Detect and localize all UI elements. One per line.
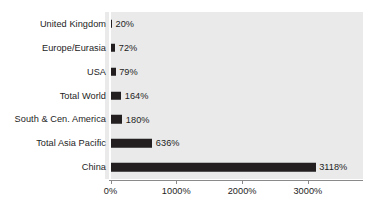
- bar-row-united-kingdom: United Kingdom 20%: [0, 12, 376, 36]
- bar-row-south-cen-america: South & Cen. America 180%: [0, 107, 376, 131]
- value-label: 636%: [156, 138, 180, 148]
- bar-row-europe-eurasia: Europe/Eurasia 72%: [0, 36, 376, 60]
- category-label: China: [82, 162, 106, 172]
- tick-label: 3000%: [293, 186, 322, 196]
- bar-group: 3118%: [111, 163, 348, 172]
- bar: [111, 115, 123, 124]
- bar-group: 180%: [111, 115, 150, 124]
- bar-group: 636%: [111, 139, 180, 148]
- bar: [111, 67, 116, 76]
- tick-mark: [111, 180, 112, 184]
- category-label: USA: [87, 67, 106, 77]
- bar-group: 72%: [111, 44, 138, 53]
- bar-row-total-asia-pacific: Total Asia Pacific 636%: [0, 131, 376, 155]
- value-label: 79%: [119, 67, 138, 77]
- tick-mark: [176, 180, 177, 184]
- value-label: 3118%: [319, 162, 347, 172]
- category-label: Total World: [60, 91, 106, 101]
- tick-mark: [308, 180, 309, 184]
- bar-group: 164%: [111, 91, 149, 100]
- category-label: South & Cen. America: [15, 114, 106, 124]
- tick-label: 0%: [104, 186, 117, 196]
- value-label: 20%: [116, 19, 135, 29]
- bar: [111, 91, 122, 100]
- bar: [111, 44, 116, 53]
- value-label: 164%: [125, 91, 149, 101]
- bar: [111, 20, 113, 29]
- value-label: 72%: [119, 43, 138, 53]
- bar-rows: United Kingdom 20% Europe/Eurasia 72% US…: [0, 12, 376, 179]
- tick-label: 2000%: [228, 186, 257, 196]
- x-axis-ticks: 0% 1000% 2000% 3000%: [0, 180, 376, 204]
- tick-label: 1000%: [162, 186, 191, 196]
- bar-row-usa: USA 79%: [0, 60, 376, 84]
- bar-chart: United Kingdom 20% Europe/Eurasia 72% US…: [0, 0, 376, 216]
- value-label: 180%: [126, 114, 150, 124]
- tick-mark: [242, 180, 243, 184]
- bar: [111, 139, 153, 148]
- bar-group: 79%: [111, 67, 138, 76]
- category-label: Total Asia Pacific: [36, 138, 106, 148]
- bar: [111, 163, 316, 172]
- bar-row-china: China 3118%: [0, 155, 376, 179]
- bar-group: 20%: [111, 20, 135, 29]
- category-label: United Kingdom: [40, 19, 106, 29]
- category-label: Europe/Eurasia: [42, 43, 106, 53]
- bar-row-total-world: Total World 164%: [0, 84, 376, 108]
